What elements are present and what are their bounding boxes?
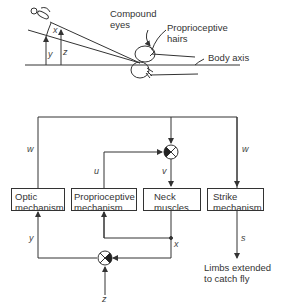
proprioceptive-hairs-line-2: hairs — [167, 33, 228, 44]
signal-s-label: s — [241, 233, 246, 243]
head-axis-line — [28, 30, 140, 63]
strike-box-line-2: mechanism — [213, 202, 260, 213]
signal-w-right-label: w — [242, 144, 249, 154]
signal-v-label: v — [162, 166, 167, 176]
compound-eyes-line-2: eyes — [110, 19, 156, 30]
angle-z-label: z — [63, 47, 68, 57]
fly-target-icon — [31, 8, 50, 21]
proprioceptive-box-line-2: mechanism — [74, 202, 133, 213]
signal-x-label: x — [174, 239, 179, 249]
proprioceptive-mechanism-box: Proprioceptive mechanism — [71, 188, 137, 211]
neck-muscles-box: Neck muscles — [143, 188, 201, 211]
strike-box-line-1: Strike — [213, 191, 260, 202]
signal-y-label: y — [29, 233, 34, 243]
output-label-line-2: to catch fly — [204, 273, 271, 284]
body-axis-label: Body axis — [208, 52, 249, 63]
diagram-lines — [0, 0, 283, 307]
angle-y-label: y — [48, 49, 53, 59]
compound-eyes-label: Compound eyes — [110, 8, 156, 30]
angle-x-label: x — [53, 25, 58, 35]
proprioceptive-hairs-line-1: Proprioceptive — [167, 22, 228, 33]
output-label-line-1: Limbs extended — [204, 262, 271, 273]
mantis-head-icon — [131, 46, 198, 78]
signal-w-left-label: w — [27, 144, 34, 154]
strike-mechanism-box: Strike mechanism — [207, 188, 264, 211]
neck-box-line-2: muscles — [154, 202, 197, 213]
signal-u-label: u — [94, 166, 99, 176]
optic-box-line-1: Optic — [15, 191, 61, 202]
compound-eyes-line-1: Compound — [110, 8, 156, 19]
output-label: Limbs extended to catch fly — [204, 262, 271, 284]
proprioceptive-hairs-label: Proprioceptive hairs — [167, 22, 228, 44]
signal-z-label: z — [102, 294, 107, 304]
neck-box-line-1: Neck — [154, 191, 197, 202]
proprioceptive-box-line-1: Proprioceptive — [74, 191, 133, 202]
optic-mechanism-box: Optic mechanism — [11, 188, 65, 211]
optic-box-line-2: mechanism — [15, 202, 61, 213]
